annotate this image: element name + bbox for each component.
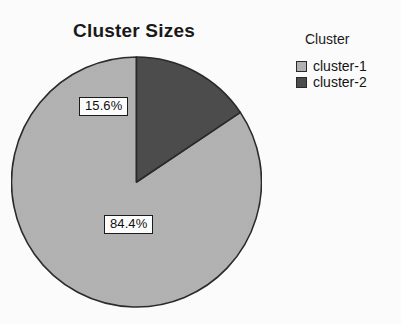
slice-value-label-cluster-2: 15.6% bbox=[79, 97, 128, 116]
legend: Cluster cluster-1 cluster-2 bbox=[296, 31, 396, 90]
pie-plot-area bbox=[11, 56, 262, 308]
legend-label-cluster-2: cluster-2 bbox=[313, 74, 367, 90]
legend-title: Cluster bbox=[305, 31, 396, 47]
chart-title: Cluster Sizes bbox=[0, 20, 268, 42]
legend-label-cluster-1: cluster-1 bbox=[313, 58, 367, 74]
legend-item-cluster-2[interactable]: cluster-2 bbox=[296, 74, 396, 90]
legend-swatch-cluster-2 bbox=[296, 77, 307, 88]
slice-value-label-cluster-1: 84.4% bbox=[104, 215, 153, 234]
pie-svg bbox=[11, 56, 262, 308]
legend-swatch-cluster-1 bbox=[296, 61, 307, 72]
pie-chart-figure: Cluster Sizes 15.6% 84.4% Cluster cluste… bbox=[0, 0, 401, 324]
legend-item-cluster-1[interactable]: cluster-1 bbox=[296, 58, 396, 74]
